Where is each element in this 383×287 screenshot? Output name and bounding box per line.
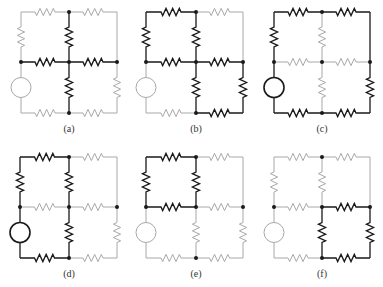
resistor-mid-right — [322, 203, 370, 210]
resistor-bot-right — [69, 254, 117, 261]
resistor-top-right — [322, 153, 370, 160]
junction-dot — [115, 205, 119, 209]
resistor-bot-right — [196, 109, 243, 116]
junction-dot — [194, 60, 198, 64]
panel-e: (e) — [136, 153, 247, 280]
voltage-source-icon — [264, 62, 284, 113]
junction-dot — [194, 256, 198, 260]
resistor-right-lower — [239, 62, 246, 113]
junction-dot — [241, 205, 245, 209]
resistor-mid-lower — [65, 207, 72, 258]
panel-label: (d) — [63, 268, 75, 280]
resistor-bot-left — [146, 254, 196, 261]
panel-b: (b) — [136, 8, 247, 135]
resistor-right-lower — [366, 207, 373, 258]
resistor-bot-left — [146, 109, 196, 116]
resistor-bot-right — [322, 109, 370, 116]
resistor-mid-lower — [65, 62, 72, 113]
junction-dot — [144, 205, 148, 209]
panel-c: (c) — [264, 8, 374, 135]
resistor-mid-lower — [192, 207, 199, 258]
junction-dot — [320, 60, 324, 64]
junction-dot — [67, 256, 71, 260]
junction-dot — [194, 111, 198, 115]
panel-f: (f) — [264, 153, 374, 280]
junction-dot — [67, 111, 71, 115]
junction-dot — [194, 10, 198, 14]
junction-dot — [320, 205, 324, 209]
resistor-mid-upper — [65, 157, 72, 207]
panel-label: (b) — [190, 123, 202, 135]
resistor-top-left — [21, 8, 69, 15]
resistor-mid-upper — [192, 157, 199, 207]
resistor-mid-lower — [192, 62, 199, 113]
resistor-right-lower — [366, 62, 373, 113]
resistor-bot-left — [274, 109, 322, 116]
resistor-mid-upper — [65, 12, 72, 62]
resistor-mid-right — [322, 58, 370, 65]
voltage-source-icon — [11, 62, 31, 113]
junction-dot — [19, 60, 23, 64]
resistor-mid-left — [146, 203, 196, 210]
junction-dot — [320, 155, 324, 159]
junction-dot — [320, 111, 324, 115]
junction-dot — [194, 205, 198, 209]
junction-dot — [194, 155, 198, 159]
circuit-elements — [11, 8, 121, 116]
resistor-top-left — [274, 153, 322, 160]
resistor-mid-right — [196, 58, 243, 65]
resistor-left-upper — [16, 157, 23, 207]
resistor-top-left — [274, 8, 322, 15]
panel-label: (a) — [63, 123, 74, 135]
resistor-mid-upper — [192, 12, 199, 62]
resistor-bot-right — [69, 109, 117, 116]
junction-dot — [18, 205, 22, 209]
voltage-source-icon — [10, 207, 30, 258]
voltage-source-icon — [264, 207, 284, 258]
resistor-mid-upper — [318, 12, 325, 62]
junction-dot — [67, 10, 71, 14]
resistor-top-left — [146, 8, 196, 15]
resistor-top-right — [196, 153, 243, 160]
resistor-mid-left — [274, 203, 322, 210]
resistor-mid-right — [69, 58, 117, 65]
panel-label: (c) — [316, 123, 327, 135]
resistor-mid-left — [20, 203, 69, 210]
junction-dot — [320, 10, 324, 14]
junction-dot — [241, 60, 245, 64]
resistor-left-upper — [142, 157, 149, 207]
circuit-figure: (a) (b) (c) (d) (e) (f) — [0, 0, 383, 287]
resistor-bot-left — [274, 254, 322, 261]
resistor-mid-left — [274, 58, 322, 65]
resistor-bot-left — [20, 254, 69, 261]
resistor-mid-left — [21, 58, 69, 65]
resistor-mid-right — [69, 203, 117, 210]
resistor-top-left — [146, 153, 196, 160]
resistor-left-upper — [142, 12, 149, 62]
junction-dot — [115, 60, 119, 64]
resistor-left-upper — [17, 12, 24, 62]
junction-dot — [368, 60, 372, 64]
resistor-mid-lower — [318, 207, 325, 258]
resistor-left-upper — [270, 12, 277, 62]
junction-dot — [144, 60, 148, 64]
panel-d: (d) — [10, 153, 121, 280]
circuit-elements — [264, 153, 374, 261]
resistor-left-upper — [270, 157, 277, 207]
resistor-top-right — [69, 153, 117, 160]
circuit-elements — [136, 8, 247, 116]
circuit-elements — [136, 153, 247, 261]
resistor-top-right — [69, 8, 117, 15]
junction-dot — [67, 205, 71, 209]
panel-label: (f) — [317, 268, 327, 280]
voltage-source-icon — [136, 207, 156, 258]
resistor-mid-lower — [318, 62, 325, 113]
resistor-top-right — [322, 8, 370, 15]
junction-dot — [320, 256, 324, 260]
circuit-elements — [10, 153, 121, 261]
resistor-right-lower — [113, 62, 120, 113]
resistor-top-right — [196, 8, 243, 15]
voltage-source-icon — [136, 62, 156, 113]
junction-dot — [272, 205, 276, 209]
resistor-mid-right — [196, 203, 243, 210]
